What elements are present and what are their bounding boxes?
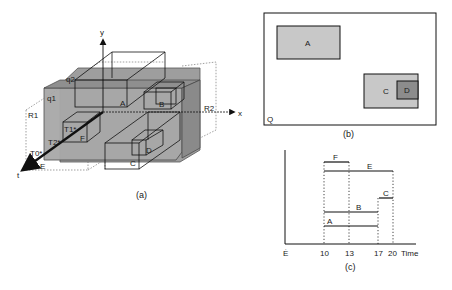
plane-q2-label: q2	[66, 75, 75, 84]
object-a-label: A	[120, 99, 126, 108]
x-axis-label: x	[238, 109, 242, 118]
caption-c: (c)	[345, 262, 356, 272]
origin-label: Ė	[283, 249, 288, 258]
object-e-label: E	[40, 162, 45, 171]
t2-label: T2*	[48, 138, 60, 147]
t1-label: T1*	[64, 125, 76, 134]
t0-label: T0*	[30, 149, 42, 158]
plane-q1	[44, 88, 182, 160]
figure: y x t q2 q1 R1 R2 T1* T2* T0* A B C D E …	[0, 0, 452, 290]
interval-b-label: B	[356, 203, 361, 212]
interval-c-label: C	[383, 189, 389, 198]
object-c-label: C	[130, 159, 136, 168]
plane-r1-label: R1	[28, 111, 39, 120]
rect-d-label: D	[404, 86, 410, 95]
caption-a: (a)	[136, 190, 147, 200]
interval-e-label: E	[367, 162, 372, 171]
tick-17: 17	[374, 249, 383, 258]
tick-10: 10	[320, 249, 329, 258]
interval-a-label: A	[327, 217, 333, 226]
query-label: Q	[267, 115, 273, 124]
plane-side	[182, 80, 200, 158]
rect-a-label: A	[305, 39, 311, 48]
tick-13: 13	[345, 249, 354, 258]
object-d-label: D	[146, 146, 152, 155]
time-axis-label: Time	[401, 249, 419, 258]
rect-c-label: C	[383, 87, 389, 96]
y-axis-label: y	[100, 28, 104, 37]
panel-a: y x t q2 q1 R1 R2 T1* T2* T0* A B C D E …	[17, 28, 242, 200]
object-f-label: F	[80, 134, 85, 143]
object-b-label: B	[159, 100, 164, 109]
panel-b: A C D Q (b)	[264, 13, 436, 139]
t-axis-label: t	[17, 171, 20, 180]
tick-20: 20	[388, 249, 397, 258]
caption-b: (b)	[343, 129, 354, 139]
plane-r2-label: R2	[204, 104, 215, 113]
interval-f-label: F	[333, 153, 338, 162]
plane-q1-label: q1	[47, 94, 56, 103]
panel-c: F E C B A Ė 10 13 17 20 Time (c)	[283, 150, 419, 272]
